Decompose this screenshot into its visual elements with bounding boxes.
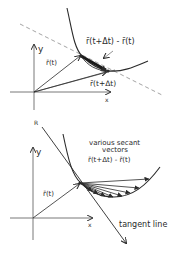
- diagram-canvas: y x r̄(t+Δt) - r̄(t) r̄(t) r̄(t+Δt) R y …: [0, 0, 188, 253]
- top-r-t-label: r̄(t): [46, 59, 57, 67]
- top-point-r-t-dt: [107, 70, 110, 73]
- top-point-r-t: [80, 55, 83, 58]
- top-pointer-arrow: [104, 51, 113, 58]
- bottom-x-axis-label: x: [88, 221, 92, 228]
- secant-label-line3: r̄(t+Δt) - r̄(t): [88, 156, 131, 164]
- top-difference-label: r̄(t+Δt) - r̄(t): [86, 37, 135, 46]
- bottom-diagram: y x various secant vectors r̄(t+Δt) - r̄…: [10, 127, 167, 243]
- tangent-line-label: tangent line: [119, 220, 167, 229]
- secant-vector: [80, 179, 149, 183]
- top-difference-vector: [81, 56, 106, 70]
- secant-label-line2: vectors: [102, 146, 128, 154]
- top-x-axis-label: x: [105, 96, 109, 103]
- top-stray-mark: R: [34, 119, 38, 126]
- bottom-r-t-label: r̄(t): [43, 190, 54, 198]
- bottom-y-axis-label: y: [36, 147, 42, 157]
- top-diagram: y x r̄(t+Δt) - r̄(t) r̄(t) r̄(t+Δt) R: [10, 8, 162, 126]
- bottom-vector-r-t: [33, 184, 79, 218]
- top-y-axis-label: y: [38, 44, 44, 54]
- top-r-t-dt-label: r̄(t+Δt): [90, 79, 116, 88]
